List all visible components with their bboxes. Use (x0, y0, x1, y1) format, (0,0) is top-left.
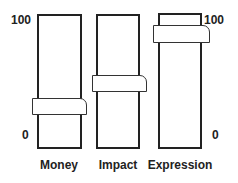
right-min-tick: 0 (212, 129, 219, 141)
left-min-tick: 0 (22, 129, 29, 141)
slider-thumb-impact[interactable] (92, 75, 147, 92)
slider-label-expression: Expression (145, 158, 215, 172)
right-max-tick: 100 (204, 14, 224, 26)
slider-thumb-expression[interactable] (153, 25, 210, 43)
slider-thumb-money[interactable] (32, 98, 87, 115)
left-max-tick: 100 (11, 14, 31, 26)
slider-label-impact: Impact (86, 158, 150, 172)
slider-label-money: Money (27, 158, 91, 172)
slider-track-money[interactable] (37, 14, 82, 149)
